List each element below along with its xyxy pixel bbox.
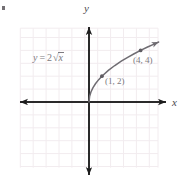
point-label-1-2: (1, 2) [105, 77, 125, 86]
y-axis-label: y [84, 3, 89, 14]
graph-figure: y x y=2√x (1, 2) (4, 4) [0, 0, 185, 191]
point-marker-4-4 [139, 49, 143, 53]
x-axis-label: x [172, 97, 177, 108]
point-label-4-4: (4, 4) [133, 56, 153, 65]
equation-radicand: x [58, 52, 64, 63]
equation-label: y=2√x [33, 52, 64, 63]
point-marker-1-2 [100, 74, 104, 78]
square-root-icon: √x [52, 52, 64, 63]
coordinate-plane [0, 0, 185, 191]
equation-equals: = [37, 52, 47, 63]
